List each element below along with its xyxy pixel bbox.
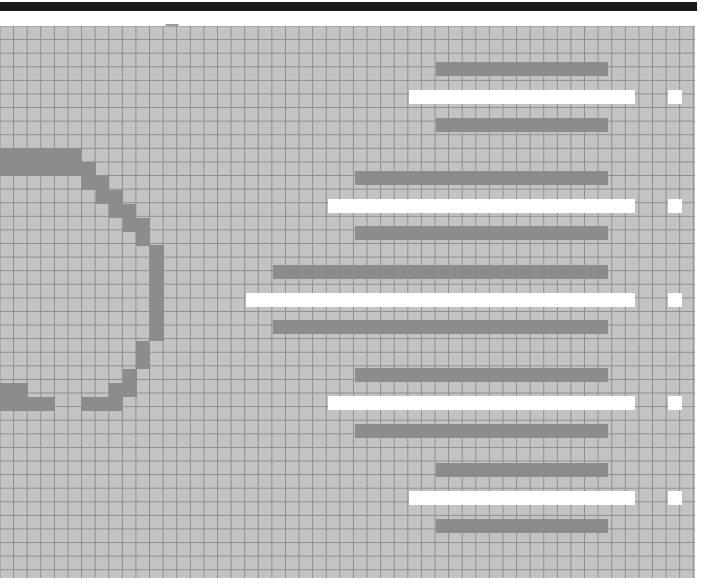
bar-group-1-light-bar [409, 90, 635, 104]
bar-group-3-dark-bar [273, 320, 608, 334]
arc-cell [109, 204, 136, 218]
bar-group-2-dark-bar [355, 226, 608, 240]
bar-group-4-edge-marker [668, 396, 682, 410]
bar-group-2-light-bar [328, 199, 635, 213]
arc-cell [96, 190, 123, 204]
bar-group-3-light-bar [246, 293, 635, 307]
arc-cell [123, 218, 137, 232]
bar-group-5-light-bar [409, 491, 635, 505]
canvas-right-margin [695, 26, 708, 586]
arc-cell [82, 176, 109, 190]
arc-cell [123, 369, 137, 383]
arc-cell [109, 383, 137, 397]
bar-group-1-dark-bar [436, 62, 608, 76]
title-bar [0, 2, 697, 11]
arc-cell [136, 341, 150, 369]
ruler-strip[interactable] [0, 11, 708, 26]
application-window [0, 0, 708, 586]
bar-group-1-edge-marker [668, 90, 682, 104]
bar-group-4-dark-bar [355, 368, 608, 382]
bar-group-2-edge-marker [668, 199, 682, 213]
bar-group-5-dark-bar [436, 519, 608, 533]
arc-cell [0, 162, 96, 176]
bar-group-5-edge-marker [668, 491, 682, 505]
arc-cell [82, 397, 123, 411]
pixel-grid-canvas[interactable] [0, 26, 695, 578]
arc-cell [150, 245, 164, 300]
arc-cell [0, 397, 55, 411]
arc-cell [150, 300, 164, 341]
bar-group-4-dark-bar [355, 424, 608, 438]
bar-group-5-dark-bar [436, 463, 608, 477]
bar-group-3-dark-bar [273, 265, 608, 279]
arc-cell [0, 148, 82, 162]
bar-group-4-light-bar [328, 396, 635, 410]
arc-cell [136, 218, 150, 246]
arc-cell [0, 383, 28, 397]
bar-group-3-edge-marker [668, 293, 682, 307]
bar-group-1-dark-bar [436, 118, 608, 132]
bar-group-2-dark-bar [355, 171, 608, 185]
canvas-bottom-margin [0, 578, 708, 586]
